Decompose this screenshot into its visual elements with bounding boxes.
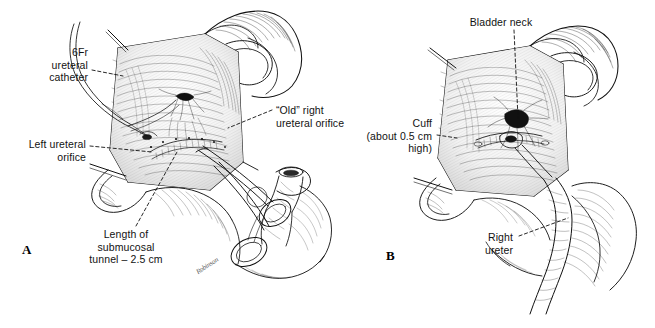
panel-letter-b: B xyxy=(386,248,395,264)
label-length-of-submucosal-tunnel: Length of submucosal tunnel – 2.5 cm xyxy=(80,228,172,266)
panel-b-artwork xyxy=(414,26,636,314)
surgical-illustration-figure: 6Fr ureteral catheter Left ureteral orif… xyxy=(0,0,655,328)
panel-letter-a: A xyxy=(22,242,31,258)
label-cuff-about-half-cm-high: Cuff (about 0.5 cm high) xyxy=(350,117,432,155)
label-right-ureter: Right ureter xyxy=(463,231,513,256)
label-bladder-neck: Bladder neck xyxy=(462,16,540,29)
leader-right-ureter xyxy=(519,218,568,236)
label-6fr-ureteral-catheter: 6Fr ureteral catheter xyxy=(16,46,88,84)
illustration-artwork xyxy=(0,0,655,328)
label-left-ureteral-orifice: Left ureteral orifice xyxy=(8,138,86,163)
